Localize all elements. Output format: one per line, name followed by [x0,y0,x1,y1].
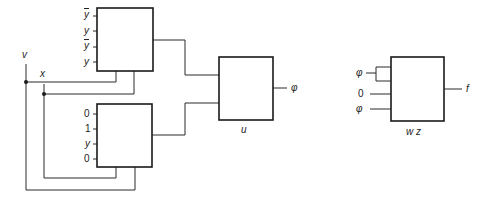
v-label: v [22,50,27,60]
phi-bracket-wire [376,67,391,81]
wz-label: w z [406,127,421,137]
u-output-label: φ [291,83,298,93]
bottom-input-2: y [85,139,90,149]
bottom-input-3: 0 [84,154,90,164]
wz-input-0: φ [356,68,363,78]
x-label: x [40,69,45,79]
bottom-input-0: 0 [84,109,90,119]
circuit-diagram: v x y y y y 0 1 y 0 u φ φ 0 φ w z f [0,0,491,201]
circuit-wiring [0,0,491,201]
mux-bottom-box [97,104,152,167]
mux-u-box [219,57,273,120]
bottom-input-1: 1 [85,124,91,134]
x-to-bottom-select [44,167,116,178]
top-input-2: y [84,41,89,51]
junction-dot [42,92,46,96]
u-label: u [241,125,247,135]
bottom-to-u-wire [152,103,219,135]
top-input-1: y [84,26,89,36]
wz-output-label: f [466,84,469,94]
top-to-u-wire [153,40,219,75]
junction-dot [24,80,28,84]
wz-input-2: φ [356,104,363,114]
mux-wz-box [391,57,444,121]
top-input-3: y [84,57,89,67]
wz-input-1: 0 [358,89,364,99]
top-input-0: y [84,10,89,20]
mux-top-box [97,8,153,71]
